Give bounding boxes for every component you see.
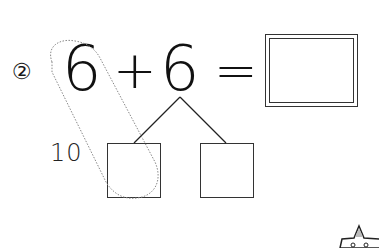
problem-number: ② xyxy=(9,59,34,84)
decompose-left-box[interactable] xyxy=(107,143,161,198)
plus-sign: + xyxy=(113,44,157,96)
make-ten-label: 10 xyxy=(50,140,83,166)
answer-box[interactable] xyxy=(265,34,358,107)
equals-sign: = xyxy=(214,44,258,96)
addend-2: 6 xyxy=(160,38,199,100)
decompose-right-box[interactable] xyxy=(200,143,254,198)
addend-1: 6 xyxy=(62,38,101,100)
star-icon xyxy=(340,226,379,248)
answer-box-inner[interactable] xyxy=(269,38,354,103)
